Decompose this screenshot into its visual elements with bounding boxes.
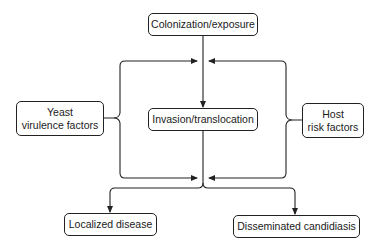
localized-disease-label: Localized disease [69,218,152,231]
disseminated-candidiasis-node: Disseminated candidiasis [233,215,360,238]
host-label-line2: risk factors [308,121,359,134]
arrow-to-disseminated [203,183,295,214]
yeast-label-line2: virulence factors [22,119,98,132]
invasion-translocation-label: Invasion/translocation [152,113,254,126]
host-label-line1: Host [322,108,344,121]
arrow-to-localized [110,183,203,212]
disseminated-candidiasis-label: Disseminated candidiasis [237,220,355,233]
host-risk-factors-node: Host risk factors [302,103,364,138]
colonization-exposure-label: Colonization/exposure [151,18,255,31]
invasion-translocation-node: Invasion/translocation [148,108,258,131]
yeast-label-line1: Yeast [47,106,73,119]
localized-disease-node: Localized disease [64,213,157,236]
yeast-virulence-factors-node: Yeast virulence factors [16,101,104,136]
colonization-exposure-node: Colonization/exposure [148,13,258,36]
